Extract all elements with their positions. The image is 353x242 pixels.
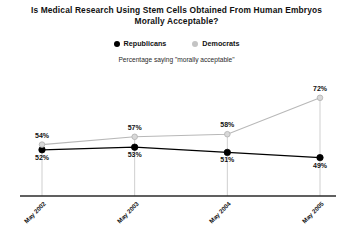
point-label-democrats: 58% (220, 121, 234, 128)
point-label-republicans: 49% (313, 162, 327, 169)
point-label-democrats: 54% (35, 132, 49, 139)
series-line-republicans (42, 147, 320, 157)
point-label-republicans: 52% (35, 154, 49, 161)
series-lines-group (42, 98, 320, 158)
drop-lines-group (42, 98, 320, 196)
data-point-republicans (131, 144, 137, 150)
data-point-democrats (317, 95, 323, 101)
point-label-democrats: 72% (313, 85, 327, 92)
data-point-democrats (225, 131, 231, 137)
data-point-democrats (132, 134, 138, 140)
point-label-democrats: 57% (128, 124, 142, 131)
series-line-democrats (42, 98, 320, 145)
point-label-republicans: 51% (220, 156, 234, 163)
chart-page: Is Medical Research Using Stem Cells Obt… (0, 0, 353, 242)
data-point-republicans (317, 154, 323, 160)
plot-svg (0, 0, 353, 242)
series-points-group (39, 95, 323, 161)
point-label-republicans: 53% (128, 151, 142, 158)
data-point-democrats (39, 142, 45, 148)
plot-area: 52%53%51%49%54%57%58%72% May 2002May 200… (0, 0, 353, 242)
data-point-republicans (224, 149, 230, 155)
